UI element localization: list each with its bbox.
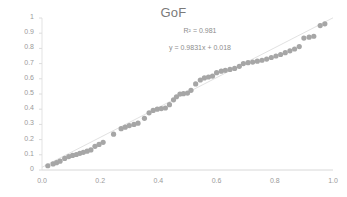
data-point (167, 102, 172, 107)
data-point (287, 48, 292, 53)
scatter-chart: GoF R² = 0.981 y = 0.9831x + 0.018 00.10… (0, 0, 347, 197)
plot-area (0, 0, 347, 197)
data-point (259, 58, 264, 63)
data-point (250, 59, 255, 64)
y-axis-tick-label: 0.7 (12, 59, 34, 66)
data-point (57, 159, 62, 164)
data-point (301, 35, 306, 40)
data-point (283, 50, 288, 55)
y-axis-tick-label: 0.8 (12, 43, 34, 50)
data-point (307, 35, 312, 40)
data-point (214, 70, 219, 75)
y-axis-tick-label: 0.6 (12, 74, 34, 81)
y-axis-tick-label: 0.5 (12, 89, 34, 96)
data-point (135, 121, 140, 126)
data-point (232, 66, 237, 71)
data-point (273, 53, 278, 58)
data-point (210, 73, 215, 78)
y-axis-tick-label: 1 (12, 13, 34, 20)
data-point (88, 147, 93, 152)
data-point (311, 34, 316, 39)
x-axis-tick-label: 0.4 (145, 177, 171, 184)
data-point (322, 21, 327, 26)
data-point (227, 67, 232, 72)
x-axis-tick-label: 0.2 (87, 177, 113, 184)
data-point (264, 56, 269, 61)
data-point (188, 88, 193, 93)
data-point (111, 132, 116, 137)
y-axis-tick-label: 0.3 (12, 119, 34, 126)
data-points (45, 21, 327, 168)
data-point (278, 52, 283, 57)
data-point (245, 60, 250, 65)
y-axis-tick-label: 0.2 (12, 135, 34, 142)
data-point (142, 116, 147, 121)
data-point (318, 23, 323, 28)
data-point (241, 61, 246, 66)
y-axis-tick-label: 0.1 (12, 150, 34, 157)
data-point (297, 44, 302, 49)
data-point (292, 46, 297, 51)
data-point (127, 123, 132, 128)
x-axis-tick-label: 1.0 (320, 177, 346, 184)
data-point (101, 140, 106, 145)
y-axis-tick-label: 0.4 (12, 104, 34, 111)
data-point (255, 59, 260, 64)
data-point (269, 55, 274, 60)
data-point (223, 68, 228, 73)
x-axis-tick-label: 0.0 (29, 177, 55, 184)
x-axis-tick-label: 0.6 (204, 177, 230, 184)
x-axis-tick-label: 0.8 (262, 177, 288, 184)
data-point (163, 105, 168, 110)
y-axis-tick-label: 0 (12, 165, 34, 172)
data-point (193, 81, 198, 86)
y-axis-tick-label: 0.9 (12, 28, 34, 35)
data-point (45, 163, 50, 168)
